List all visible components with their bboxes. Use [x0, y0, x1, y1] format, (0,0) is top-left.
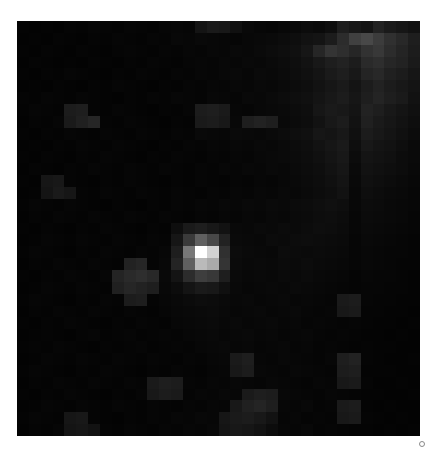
pixel-heatmap-canvas — [17, 21, 420, 436]
corner-dot-marker — [419, 441, 425, 447]
figure-root — [0, 0, 437, 454]
astronomical-image-panel — [17, 21, 420, 436]
